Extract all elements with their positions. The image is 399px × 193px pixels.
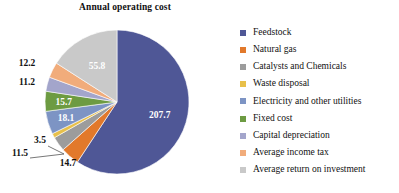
legend-item-label: Catalysts and Chemicals bbox=[253, 62, 346, 72]
pie-svg: 207.714.711.53.518.115.711.212.255.8 bbox=[0, 14, 240, 193]
pie-slice-label: 55.8 bbox=[89, 61, 106, 71]
legend-item[interactable]: Average return on investment bbox=[240, 162, 399, 179]
pie-slice-label: 12.2 bbox=[19, 58, 36, 68]
pie-plot-area: 207.714.711.53.518.115.711.212.255.8 bbox=[0, 14, 240, 193]
legend-item-label: Average return on investment bbox=[253, 165, 365, 175]
legend-item-label: Feedstock bbox=[253, 28, 292, 38]
legend-item-label: Electricity and other utilities bbox=[253, 97, 361, 107]
legend-swatch-icon bbox=[240, 116, 246, 122]
legend-swatch-icon bbox=[240, 81, 246, 87]
legend-item[interactable]: Electricity and other utilities bbox=[240, 93, 399, 110]
legend-item[interactable]: Average income tax bbox=[240, 144, 399, 161]
legend-swatch-icon bbox=[240, 150, 246, 156]
label-leader-lines bbox=[30, 146, 64, 158]
legend-swatch-icon bbox=[240, 133, 246, 139]
legend-item-label: Average income tax bbox=[253, 148, 329, 158]
pie-slice-label: 14.7 bbox=[60, 158, 77, 168]
legend-swatch-icon bbox=[240, 47, 246, 53]
pie-slice-label: 15.7 bbox=[55, 97, 72, 107]
legend-item[interactable]: Natural gas bbox=[240, 41, 399, 58]
legend-item[interactable]: Catalysts and Chemicals bbox=[240, 58, 399, 75]
legend-swatch-icon bbox=[240, 167, 246, 173]
legend-item-label: Waste disposal bbox=[253, 79, 310, 89]
pie-slice-label: 207.7 bbox=[149, 110, 171, 120]
legend-item-label: Capital depreciation bbox=[253, 131, 330, 141]
legend-item[interactable]: Waste disposal bbox=[240, 76, 399, 93]
pie-slice-label: 3.5 bbox=[34, 135, 46, 145]
pie-chart: Annual operating cost 207.714.711.53.518… bbox=[0, 0, 399, 193]
legend-item[interactable]: Feedstock bbox=[240, 24, 399, 41]
legend-swatch-icon bbox=[240, 98, 246, 104]
legend-item-label: Fixed cost bbox=[253, 114, 292, 124]
pie-slice-label: 18.1 bbox=[58, 113, 75, 123]
pie-slice-label: 11.2 bbox=[19, 77, 35, 87]
legend-item[interactable]: Capital depreciation bbox=[240, 127, 399, 144]
legend-item-label: Natural gas bbox=[253, 45, 297, 55]
chart-title: Annual operating cost bbox=[0, 2, 250, 12]
legend-item[interactable]: Fixed cost bbox=[240, 110, 399, 127]
legend-swatch-icon bbox=[240, 64, 246, 70]
legend-swatch-icon bbox=[240, 30, 246, 36]
legend: FeedstockNatural gasCatalysts and Chemic… bbox=[240, 24, 399, 179]
pie-slice-label: 11.5 bbox=[12, 148, 28, 158]
